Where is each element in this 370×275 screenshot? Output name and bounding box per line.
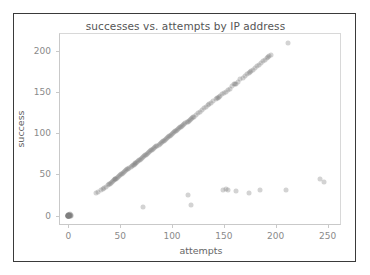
scatter-point — [68, 212, 73, 217]
scatter-point — [130, 163, 135, 168]
scatter-point — [195, 111, 200, 116]
scatter-point — [68, 213, 73, 218]
scatter-point — [66, 213, 71, 218]
scatter-point — [173, 129, 178, 134]
scatter-point — [67, 213, 72, 218]
y-tick-label: 200 — [34, 46, 51, 56]
y-tick-label: 150 — [34, 87, 51, 97]
screenshot-root: successes vs. attempts by IP address 050… — [0, 0, 370, 275]
scatter-point — [67, 213, 72, 218]
scatter-point — [162, 137, 167, 142]
y-tick-mark — [56, 216, 60, 217]
scatter-point — [138, 156, 143, 161]
scatter-point — [184, 120, 189, 125]
scatter-point — [217, 93, 222, 98]
scatter-point — [150, 147, 155, 152]
scatter-point — [66, 212, 71, 217]
scatter-point — [230, 84, 235, 89]
scatter-point — [96, 189, 101, 194]
x-tick-mark — [68, 224, 69, 228]
scatter-point — [67, 212, 72, 217]
scatter-point — [193, 112, 198, 117]
scatter-point — [143, 153, 148, 158]
scatter-point — [189, 116, 194, 121]
scatter-point — [66, 213, 71, 218]
scatter-points-layer — [60, 34, 340, 224]
scatter-point — [160, 139, 165, 144]
scatter-point — [214, 96, 219, 101]
scatter-point — [165, 135, 170, 140]
scatter-point — [154, 144, 159, 149]
scatter-point — [234, 81, 239, 86]
scatter-point — [125, 167, 130, 172]
scatter-point — [234, 188, 239, 193]
scatter-point — [127, 165, 132, 170]
scatter-point — [132, 161, 137, 166]
scatter-point — [188, 203, 193, 208]
scatter-point — [158, 141, 163, 146]
scatter-point — [151, 146, 156, 151]
scatter-point — [94, 191, 99, 196]
scatter-point — [179, 125, 184, 130]
scatter-point — [132, 160, 137, 165]
scatter-point — [67, 212, 72, 217]
scatter-point — [108, 180, 113, 185]
scatter-point — [66, 212, 71, 217]
scatter-point — [191, 114, 196, 119]
scatter-point — [236, 79, 241, 84]
scatter-point — [163, 136, 168, 141]
scatter-point — [119, 172, 124, 177]
scatter-point — [118, 173, 123, 178]
scatter-point — [263, 57, 268, 62]
scatter-point — [190, 115, 195, 120]
scatter-point — [103, 184, 108, 189]
scatter-point — [136, 158, 141, 163]
scatter-point — [112, 176, 117, 181]
y-tick-mark — [56, 51, 60, 52]
scatter-point — [112, 177, 117, 182]
scatter-point — [139, 155, 144, 160]
scatter-point — [111, 178, 116, 183]
scatter-point — [252, 65, 257, 70]
scatter-point — [122, 169, 127, 174]
scatter-point — [68, 212, 73, 217]
scatter-point — [152, 146, 157, 151]
scatter-point — [106, 182, 111, 187]
scatter-point — [267, 54, 272, 59]
x-tick-mark — [172, 224, 173, 228]
scatter-point — [105, 183, 110, 188]
scatter-point — [107, 181, 112, 186]
x-axis-label: attempts — [60, 245, 342, 256]
scatter-point — [166, 134, 171, 139]
scatter-point — [232, 82, 237, 87]
scatter-point — [207, 102, 212, 107]
scatter-point — [129, 164, 134, 169]
scatter-point — [149, 148, 154, 153]
chart-title: successes vs. attempts by IP address — [14, 20, 357, 32]
y-tick-label: 50 — [40, 169, 51, 179]
scatter-point — [248, 69, 253, 74]
scatter-point — [137, 157, 142, 162]
scatter-point — [261, 59, 266, 64]
scatter-point — [145, 151, 150, 156]
x-tick-mark — [276, 224, 277, 228]
x-tick-mark — [224, 224, 225, 228]
scatter-point — [133, 160, 138, 165]
scatter-point — [215, 95, 220, 100]
scatter-point — [115, 175, 120, 180]
scatter-point — [220, 188, 225, 193]
scatter-point — [161, 138, 166, 143]
scatter-point — [67, 213, 72, 218]
scatter-point — [66, 213, 71, 218]
x-tick-label: 200 — [267, 231, 284, 241]
scatter-point — [204, 104, 209, 109]
scatter-point — [131, 162, 136, 167]
scatter-point — [185, 119, 190, 124]
x-tick-label: 100 — [163, 231, 180, 241]
scatter-point — [68, 213, 73, 218]
scatter-point — [153, 145, 158, 150]
y-tick-label: 100 — [34, 128, 51, 138]
scatter-point — [183, 121, 188, 126]
y-tick-mark — [56, 92, 60, 93]
scatter-point — [180, 123, 185, 128]
